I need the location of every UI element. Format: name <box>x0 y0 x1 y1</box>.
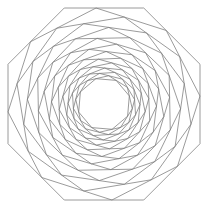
octagon-layer <box>58 58 149 149</box>
octagon-layer <box>63 63 145 145</box>
octagon-layer <box>8 8 200 200</box>
octagon-layer <box>24 24 185 185</box>
octagon-layer <box>67 67 141 141</box>
octagon-layer <box>44 44 164 164</box>
octagon-layer <box>49 49 158 158</box>
octagon-layer <box>79 79 130 130</box>
octagon-layer <box>73 73 134 134</box>
octagon-layer <box>17 17 191 191</box>
octagon-layer <box>27 27 180 180</box>
octagon-layer <box>38 38 171 171</box>
octagon-layer <box>72 72 135 135</box>
octagon-layer <box>68 68 140 140</box>
octagon-layer <box>38 38 169 169</box>
figure-canvas <box>0 0 208 208</box>
nested-octagon-spiral <box>0 0 208 208</box>
octagon-layer <box>52 52 157 157</box>
octagon-layer <box>8 8 200 200</box>
octagon-layer <box>76 76 133 133</box>
octagon-layer <box>59 59 149 149</box>
